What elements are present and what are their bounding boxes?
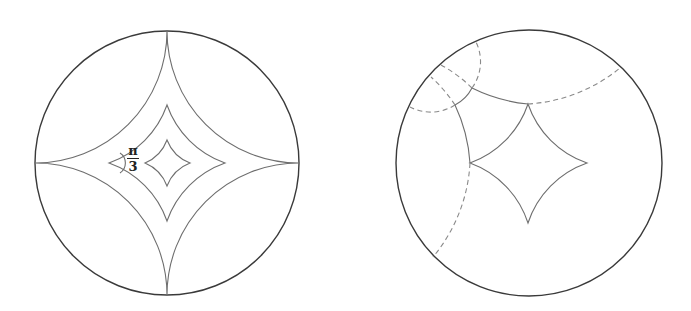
figure [0,0,691,311]
right-top-wall [472,88,528,104]
right-disk [396,30,662,296]
right-quadrilateral [470,104,587,223]
dashed-diagonal-lower [431,77,455,105]
left-ideal-quadrilateral [35,31,299,295]
dashed-top-extension [528,68,620,104]
right-left-wall [455,105,470,163]
right-corner-wall [455,88,472,105]
angle-label-numerator: π [126,144,140,157]
right-boundary-circle [396,30,662,296]
dashed-left-extension [433,163,470,257]
dashed-corner-arc-left [410,105,455,112]
dashed-corner-arc-up [472,40,481,88]
dashed-diagonal-upper [441,65,472,88]
left-disk [35,31,299,295]
left-inner-quadrilateral [145,140,190,186]
angle-label-denominator: 3 [126,160,140,173]
left-boundary-circle [35,31,299,295]
